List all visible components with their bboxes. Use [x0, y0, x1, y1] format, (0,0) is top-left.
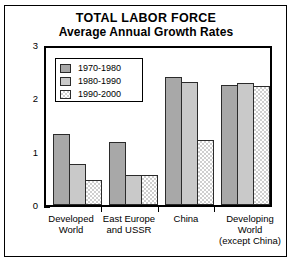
y-tick-label-1: 1 [22, 147, 38, 158]
chart-subtitle: Average Annual Growth Rates [0, 25, 292, 39]
bar-developing-world-1990-2000 [253, 86, 270, 205]
bar-east-europe-ussr-1980-1990 [125, 175, 142, 205]
bar-developed-world-1980-1990 [69, 164, 86, 205]
x-category-east-europe-ussr: East Europe and USSR [99, 213, 159, 235]
x-category-china-line1: China [158, 213, 214, 224]
x-category-developing-world-line2: World [212, 224, 288, 235]
legend-swatch-1990-2000 [60, 90, 71, 99]
legend-swatch-1970-1980 [60, 64, 71, 73]
legend-item-1970-1980: 1970-1980 [60, 62, 138, 74]
bar-east-europe-ussr-1970-1980 [109, 142, 126, 205]
bar-east-europe-ussr-1990-2000 [141, 175, 158, 205]
legend-label-1990-2000: 1990-2000 [78, 89, 121, 99]
bar-china-1980-1990 [181, 82, 198, 205]
chart-figure: TOTAL LABOR FORCE Average Annual Growth … [0, 0, 292, 262]
legend-swatch-1980-1990 [60, 77, 71, 86]
plot-area: 1970-1980 1980-1990 1990-2000 [44, 46, 272, 207]
legend-label-1970-1980: 1970-1980 [78, 63, 121, 73]
y-tick-label-3: 3 [22, 40, 38, 51]
bar-developed-world-1990-2000 [85, 180, 102, 205]
chart-legend: 1970-1980 1980-1990 1990-2000 [55, 58, 143, 102]
x-category-china: China [158, 213, 214, 224]
x-category-developed-world-line1: Developed [42, 213, 100, 224]
x-tick-1 [101, 207, 102, 212]
y-tick-label-0: 0 [22, 200, 38, 211]
bar-developing-world-1970-1980 [221, 85, 238, 205]
legend-item-1990-2000: 1990-2000 [60, 88, 138, 100]
chart-title: TOTAL LABOR FORCE [0, 11, 292, 25]
x-category-east-europe-ussr-line1: East Europe [99, 213, 159, 224]
x-category-developing-world-line3: (except China) [212, 235, 288, 246]
y-tick-label-2: 2 [22, 93, 38, 104]
legend-item-1980-1990: 1980-1990 [60, 75, 138, 87]
bar-developed-world-1970-1980 [53, 134, 70, 205]
bar-china-1990-2000 [197, 140, 214, 205]
x-category-developed-world: Developed World [42, 213, 100, 235]
x-category-developed-world-line2: World [42, 224, 100, 235]
x-category-east-europe-ussr-line2: and USSR [99, 224, 159, 235]
x-category-developing-world-line1: Developing [212, 213, 288, 224]
bar-developing-world-1980-1990 [237, 83, 254, 205]
x-category-developing-world: Developing World (except China) [212, 213, 288, 246]
x-tick-3 [214, 207, 215, 212]
bar-china-1970-1980 [165, 77, 182, 205]
x-tick-2 [158, 207, 159, 212]
legend-label-1980-1990: 1980-1990 [78, 76, 121, 86]
